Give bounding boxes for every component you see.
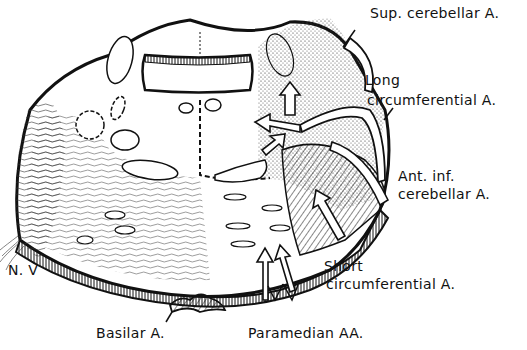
label-basilar-artery: Basilar A. xyxy=(96,325,165,341)
label-trigeminal-nerve: N. V xyxy=(8,262,38,278)
label-short-circumferential-line1: Short xyxy=(324,258,363,274)
label-long-circumferential-line2: circumferential A. xyxy=(367,92,496,108)
label-sup-cerebellar-artery: Sup. cerebellar A. xyxy=(370,5,499,21)
label-short-circumferential-line2: circumferential A. xyxy=(326,276,455,292)
label-long-circumferential-line1: Long xyxy=(365,72,400,88)
label-paramedian-arteries: Paramedian AA. xyxy=(248,325,364,341)
label-ant-inf-cerebellar-line1: Ant. inf. xyxy=(398,168,455,184)
label-ant-inf-cerebellar-line2: cerebellar A. xyxy=(398,186,490,202)
